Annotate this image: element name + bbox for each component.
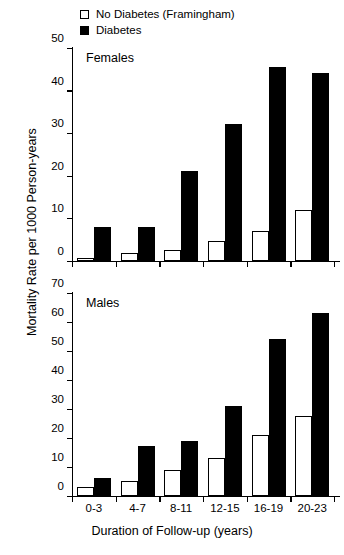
bar-groups-males — [72, 292, 334, 496]
y-tick-label: 70 — [51, 278, 64, 289]
bar-group — [290, 47, 334, 261]
figure: No Diabetes (Framingham) Diabetes Mortal… — [0, 0, 344, 555]
x-tick — [203, 262, 204, 267]
bar-diabetes — [94, 478, 111, 495]
x-axis-label: 16-19 — [247, 502, 291, 516]
bar-diabetes — [181, 441, 198, 496]
bar-group — [72, 292, 116, 496]
bar-diabetes — [269, 67, 286, 261]
panel-males: Males 010203040506070 — [72, 292, 334, 497]
plot-area-females: Females 01020304050 — [72, 47, 334, 262]
y-tick-label: 30 — [51, 118, 64, 129]
y-tick-label: 0 — [58, 481, 64, 492]
bar-diabetes — [312, 73, 329, 260]
bar-no-diabetes — [208, 241, 225, 260]
bar-pair — [295, 313, 329, 496]
x-axis-label: 4-7 — [116, 502, 160, 516]
bar-group — [116, 47, 160, 261]
x-axis-label: 12-15 — [203, 502, 247, 516]
x-tick — [72, 262, 73, 267]
y-tick-label: 60 — [51, 307, 64, 318]
filled-square-icon — [80, 26, 89, 35]
bar-group — [72, 47, 116, 261]
x-tick — [116, 262, 117, 267]
bar-diabetes — [181, 171, 198, 260]
bar-group — [247, 47, 291, 261]
bar-no-diabetes — [208, 458, 225, 496]
bar-pair — [164, 171, 198, 260]
y-tick-label: 40 — [51, 75, 64, 86]
bar-no-diabetes — [164, 250, 181, 261]
bar-group — [116, 292, 160, 496]
y-tick-label: 50 — [51, 33, 64, 44]
legend-item-diabetes: Diabetes — [80, 22, 235, 38]
open-square-icon — [80, 10, 89, 19]
bar-pair — [208, 124, 242, 260]
y-tick-label: 0 — [58, 246, 64, 257]
x-tick — [247, 262, 248, 267]
x-axis-label: 8-11 — [159, 502, 203, 516]
bar-diabetes — [225, 406, 242, 496]
bar-diabetes — [312, 313, 329, 496]
bar-no-diabetes — [121, 253, 138, 260]
bar-pair — [164, 441, 198, 496]
bar-pair — [121, 446, 155, 495]
y-tick-label: 10 — [51, 452, 64, 463]
bar-group — [159, 47, 203, 261]
bar-diabetes — [94, 227, 111, 261]
plot-area-males: Males 010203040506070 — [72, 292, 334, 497]
bar-no-diabetes — [164, 470, 181, 496]
bar-diabetes — [269, 339, 286, 496]
legend-label-no-diabetes: No Diabetes (Framingham) — [96, 8, 235, 20]
y-tick-label: 10 — [51, 203, 64, 214]
y-tick-label: 30 — [51, 394, 64, 405]
bar-no-diabetes — [295, 416, 312, 496]
bar-diabetes — [225, 124, 242, 260]
bar-diabetes — [138, 446, 155, 495]
bar-pair — [252, 339, 286, 496]
legend: No Diabetes (Framingham) Diabetes — [80, 6, 235, 38]
bar-pair — [121, 227, 155, 261]
y-tick-label: 20 — [51, 160, 64, 171]
x-tick — [290, 262, 291, 267]
bar-no-diabetes — [252, 231, 269, 261]
bar-group — [159, 292, 203, 496]
bar-groups-females — [72, 47, 334, 261]
y-tick-label: 20 — [51, 423, 64, 434]
x-tick — [334, 262, 335, 267]
bar-pair — [77, 227, 111, 261]
x-tick — [334, 497, 335, 502]
x-tick — [159, 262, 160, 267]
bar-group — [290, 292, 334, 496]
bar-no-diabetes — [77, 258, 94, 260]
y-tick-label: 50 — [51, 336, 64, 347]
bar-no-diabetes — [295, 210, 312, 261]
bar-group — [203, 292, 247, 496]
bar-no-diabetes — [121, 481, 138, 496]
panel-females: Females 01020304050 — [72, 47, 334, 262]
bar-pair — [295, 73, 329, 260]
x-axis-title: Duration of Follow-up (years) — [0, 524, 344, 538]
bar-no-diabetes — [252, 435, 269, 496]
x-axis-label: 0-3 — [72, 502, 116, 516]
bar-pair — [252, 67, 286, 261]
bar-diabetes — [138, 227, 155, 261]
bar-group — [203, 47, 247, 261]
y-axis-title: Mortality Rate per 1000 Person-years — [25, 107, 39, 357]
y-tick-label: 40 — [51, 365, 64, 376]
bar-pair — [208, 406, 242, 496]
bar-no-diabetes — [77, 487, 94, 496]
bar-group — [247, 292, 291, 496]
legend-item-no-diabetes: No Diabetes (Framingham) — [80, 6, 235, 22]
x-axis-label: 20-23 — [290, 502, 334, 516]
legend-label-diabetes: Diabetes — [96, 24, 141, 36]
bar-pair — [77, 478, 111, 495]
x-axis-labels: 0-34-78-1112-1516-1920-23 — [72, 502, 334, 516]
